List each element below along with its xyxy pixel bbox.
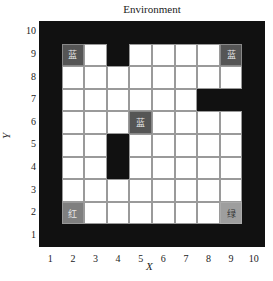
y-tick-label: 2 xyxy=(18,206,36,217)
empty-cell xyxy=(62,179,85,202)
empty-cell xyxy=(62,134,85,157)
wall-cell xyxy=(107,44,130,67)
empty-cell xyxy=(152,111,175,134)
empty-cell xyxy=(197,66,220,89)
wall-cell xyxy=(107,134,130,157)
empty-cell xyxy=(62,157,85,180)
empty-cell xyxy=(107,111,130,134)
blue-marker-cell: 蓝 xyxy=(62,44,85,67)
wall-cell xyxy=(129,224,152,247)
empty-cell xyxy=(129,202,152,225)
empty-cell xyxy=(152,179,175,202)
empty-cell xyxy=(107,202,130,225)
empty-cell xyxy=(84,89,107,112)
empty-cell xyxy=(152,134,175,157)
wall-cell xyxy=(39,157,62,180)
wall-cell xyxy=(84,224,107,247)
empty-cell xyxy=(107,89,130,112)
wall-cell xyxy=(220,224,243,247)
environment-grid: 蓝蓝蓝红绿 xyxy=(39,21,265,247)
empty-cell xyxy=(175,202,198,225)
empty-cell xyxy=(129,44,152,67)
empty-cell xyxy=(197,202,220,225)
empty-cell xyxy=(152,89,175,112)
empty-cell xyxy=(84,202,107,225)
wall-cell xyxy=(39,89,62,112)
empty-cell xyxy=(129,179,152,202)
empty-cell xyxy=(129,66,152,89)
empty-cell xyxy=(152,44,175,67)
empty-cell xyxy=(175,179,198,202)
wall-cell xyxy=(152,21,175,44)
empty-cell xyxy=(175,111,198,134)
empty-cell xyxy=(84,111,107,134)
empty-cell xyxy=(197,179,220,202)
empty-cell xyxy=(197,44,220,67)
empty-cell xyxy=(175,89,198,112)
wall-cell xyxy=(197,89,220,112)
x-tick-label: 9 xyxy=(220,253,242,264)
empty-cell xyxy=(220,111,243,134)
wall-cell xyxy=(242,202,265,225)
blue-marker-cell: 蓝 xyxy=(129,111,152,134)
x-tick-label: 8 xyxy=(198,253,220,264)
empty-cell xyxy=(175,157,198,180)
wall-cell xyxy=(242,224,265,247)
empty-cell xyxy=(62,89,85,112)
y-tick-label: 5 xyxy=(18,138,36,149)
wall-cell xyxy=(62,21,85,44)
wall-cell xyxy=(242,44,265,67)
empty-cell xyxy=(129,134,152,157)
wall-cell xyxy=(242,179,265,202)
empty-cell xyxy=(84,157,107,180)
x-tick-label: 1 xyxy=(39,253,61,264)
x-tick-label: 6 xyxy=(152,253,174,264)
empty-cell xyxy=(62,66,85,89)
empty-cell xyxy=(107,66,130,89)
empty-cell xyxy=(197,134,220,157)
chart-title: Environment xyxy=(39,3,265,15)
wall-cell xyxy=(39,21,62,44)
wall-cell xyxy=(197,21,220,44)
wall-cell xyxy=(197,224,220,247)
wall-cell xyxy=(39,66,62,89)
wall-cell xyxy=(39,134,62,157)
empty-cell xyxy=(62,111,85,134)
green-marker-cell: 绿 xyxy=(220,202,243,225)
red-marker-cell: 红 xyxy=(62,202,85,225)
wall-cell xyxy=(242,111,265,134)
wall-cell xyxy=(175,224,198,247)
wall-cell xyxy=(152,224,175,247)
y-tick-label: 7 xyxy=(18,93,36,104)
wall-cell xyxy=(39,111,62,134)
y-tick-label: 8 xyxy=(18,71,36,82)
wall-cell xyxy=(107,21,130,44)
empty-cell xyxy=(84,179,107,202)
wall-cell xyxy=(175,21,198,44)
wall-cell xyxy=(242,21,265,44)
y-tick-label: 9 xyxy=(18,48,36,59)
empty-cell xyxy=(220,66,243,89)
wall-cell xyxy=(62,224,85,247)
empty-cell xyxy=(220,134,243,157)
wall-cell xyxy=(107,224,130,247)
empty-cell xyxy=(152,66,175,89)
empty-cell xyxy=(84,134,107,157)
y-tick-label: 1 xyxy=(18,229,36,240)
empty-cell xyxy=(175,44,198,67)
y-tick-label: 10 xyxy=(18,25,36,36)
x-tick-label: 2 xyxy=(62,253,84,264)
wall-cell xyxy=(39,224,62,247)
empty-cell xyxy=(129,89,152,112)
wall-cell xyxy=(242,66,265,89)
wall-cell xyxy=(84,21,107,44)
wall-cell xyxy=(220,89,243,112)
wall-cell xyxy=(129,21,152,44)
wall-cell xyxy=(39,179,62,202)
empty-cell xyxy=(84,66,107,89)
wall-cell xyxy=(242,89,265,112)
x-tick-label: 4 xyxy=(107,253,129,264)
y-axis-label: Y xyxy=(0,133,12,139)
empty-cell xyxy=(107,179,130,202)
empty-cell xyxy=(220,179,243,202)
